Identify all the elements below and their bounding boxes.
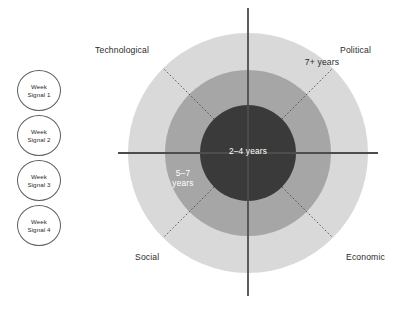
week-signal-chip-line1: Week (31, 218, 47, 226)
week-signal-chip-line2: Signal 3 (27, 181, 50, 189)
week-signal-chip-line2: Signal 4 (27, 226, 50, 234)
diagram-canvas: Week Signal 1 Week Signal 2 Week Signal … (0, 0, 409, 311)
quadrant-label-political: Political (340, 45, 371, 55)
list-item[interactable]: Week Signal 3 (17, 160, 61, 201)
week-signal-chip-line2: Signal 2 (27, 136, 50, 144)
week-signal-chip-line1: Week (31, 128, 47, 136)
quadrant-label-social: Social (135, 252, 159, 262)
list-item[interactable]: Week Signal 2 (17, 115, 61, 156)
middle-ring-label: 5–7 years (162, 169, 204, 188)
week-signal-chip-line1: Week (31, 83, 47, 91)
list-item[interactable]: Week Signal 4 (17, 205, 61, 246)
quadrant-label-technological: Technological (95, 45, 149, 55)
week-signal-chip-line1: Week (31, 173, 47, 181)
week-signal-chip-line2: Signal 1 (27, 91, 50, 99)
core-ring-label: 2–4 years (208, 147, 288, 157)
outer-ring-label: 7+ years (293, 57, 351, 67)
quadrant-label-economic: Economic (346, 252, 385, 262)
list-item[interactable]: Week Signal 1 (17, 70, 61, 111)
week-signal-chip-list: Week Signal 1 Week Signal 2 Week Signal … (17, 70, 65, 250)
middle-ring-label-line2: years (162, 179, 204, 189)
